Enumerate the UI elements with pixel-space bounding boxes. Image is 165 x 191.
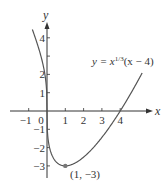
x-tick-label: 4 xyxy=(117,114,123,126)
y-tick-label: −3 xyxy=(33,160,45,172)
y-tick-label: −1 xyxy=(33,123,45,135)
minimum-point xyxy=(63,164,67,168)
y-tick-label: 4 xyxy=(40,32,46,44)
y-axis-arrow-icon xyxy=(45,22,50,29)
equation-label: y = x1/3(x − 4) xyxy=(91,55,154,68)
x-tick-label: −1 xyxy=(20,114,32,126)
y-axis-label: y xyxy=(42,8,49,22)
function-graph: x y −101234 −3−2−1124 (1, −3) y = x1/3(x… xyxy=(0,0,165,191)
x-tick-label: 1 xyxy=(63,114,69,126)
x-tick-label: 2 xyxy=(81,114,87,126)
equation-suffix: (x − 4) xyxy=(124,55,154,68)
x-tick-label: 3 xyxy=(99,114,105,126)
y-tick-label: −2 xyxy=(33,142,45,154)
y-tick-label: 1 xyxy=(40,87,46,99)
function-curve xyxy=(32,29,142,165)
equation-prefix: y = x xyxy=(91,55,115,67)
minimum-point-label: (1, −3) xyxy=(70,168,100,181)
x-axis-arrow-icon xyxy=(146,109,153,114)
x-axis-label: x xyxy=(154,104,161,118)
